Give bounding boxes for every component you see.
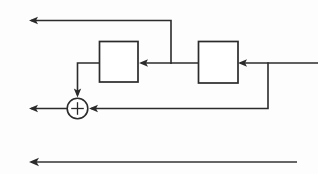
diagram-svg [0, 0, 318, 174]
block-left[interactable] [100, 42, 139, 83]
summing-junction[interactable] [67, 98, 88, 119]
block-diagram-canvas [0, 0, 318, 174]
signal-interblock [139, 59, 198, 66]
signal-to-summer [74, 63, 100, 98]
block-right[interactable] [199, 42, 239, 84]
signal-output-bottom [29, 158, 297, 166]
signal-output-summer [29, 105, 67, 112]
signal-input-right [238, 59, 318, 66]
